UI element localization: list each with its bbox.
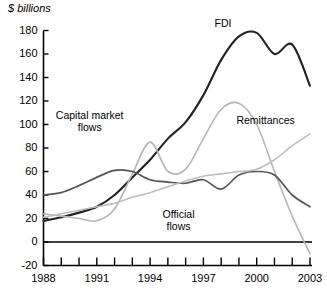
y-tick-label: 180 xyxy=(10,24,38,36)
chart-plot-svg xyxy=(0,0,327,297)
y-tick-label: 60 xyxy=(10,165,38,177)
x-tick-label: 1988 xyxy=(24,272,64,284)
y-tick-label: -20 xyxy=(10,259,38,271)
series-label-official-flows: Official flows xyxy=(119,208,239,232)
y-tick-label: 160 xyxy=(10,47,38,59)
x-tick-label: 2003 xyxy=(290,272,327,284)
y-tick-label: 120 xyxy=(10,94,38,106)
y-tick-label: 20 xyxy=(10,212,38,224)
series-label-official-flows-line2: flows xyxy=(119,220,239,232)
series-line-remittances xyxy=(44,134,311,217)
series-label-fdi: FDI xyxy=(163,17,283,29)
series-label-remittances-text: Remittances xyxy=(236,114,294,126)
series-label-fdi-text: FDI xyxy=(214,17,231,29)
series-line-official-flows xyxy=(44,170,311,207)
series-label-official-flows-line1: Official xyxy=(119,208,239,220)
series-label-capital-market-flows: Capital market flows xyxy=(30,109,150,133)
y-tick-label: 140 xyxy=(10,71,38,83)
x-tick-label: 1997 xyxy=(183,272,223,284)
x-tick-label: 1991 xyxy=(77,272,117,284)
y-tick-label: 80 xyxy=(10,141,38,153)
x-tick-label: 1994 xyxy=(130,272,170,284)
series-label-capital-market-flows-line2: flows xyxy=(30,121,150,133)
y-tick-label: 40 xyxy=(10,188,38,200)
series-label-capital-market-flows-line1: Capital market xyxy=(30,109,150,121)
chart-container: $ billions 180160140120100806040200-20 1… xyxy=(0,0,327,297)
x-tick-label: 2000 xyxy=(237,272,277,284)
series-label-remittances: Remittances xyxy=(206,114,326,126)
y-tick-label: 0 xyxy=(10,235,38,247)
